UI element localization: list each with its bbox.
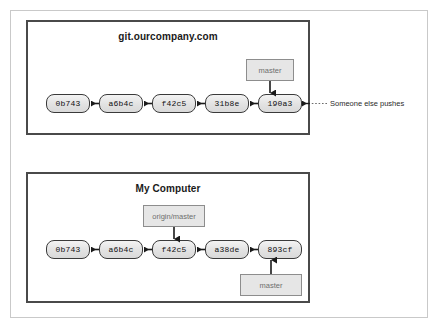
commit-node-server-31b8e[interactable]: 31b8e (205, 94, 249, 113)
commit-node-local-0b743[interactable]: 0b743 (46, 240, 90, 259)
commit-node-local-893cf[interactable]: 893cf (258, 240, 302, 259)
commit-node-server-f42c5[interactable]: f42c5 (152, 94, 196, 113)
commit-node-server-0b743[interactable]: 0b743 (46, 94, 90, 113)
branch-label-local-origin-master[interactable]: origin/master (143, 205, 205, 227)
annotation-someone-else-pushes: Someone else pushes (330, 99, 404, 108)
commit-node-local-a38de[interactable]: a38de (205, 240, 249, 259)
commit-node-server-a6b4c[interactable]: a6b4c (99, 94, 143, 113)
panel-local-computer-title: My Computer (28, 183, 308, 194)
commit-node-local-a6b4c[interactable]: a6b4c (99, 240, 143, 259)
branch-label-local-master[interactable]: master (240, 274, 302, 296)
commit-node-local-f42c5[interactable]: f42c5 (152, 240, 196, 259)
branch-label-server-master[interactable]: master (246, 59, 294, 81)
git-branching-diagram: git.ourcompany.com 0b743 a6b4c f42c5 31b… (0, 0, 439, 331)
commit-node-server-190a3[interactable]: 190a3 (258, 94, 302, 113)
panel-remote-server-title: git.ourcompany.com (28, 31, 308, 42)
